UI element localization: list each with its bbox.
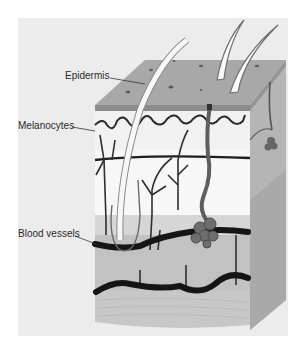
skin-cross-section-illustration [0, 0, 301, 362]
label-melanocytes: Melanocytes [18, 120, 74, 132]
label-blood-vessels: Blood vessels [18, 228, 80, 240]
subcutaneous-layer [95, 290, 250, 328]
label-epidermis: Epidermis [65, 70, 109, 82]
melanocytes-leader-line [72, 127, 95, 131]
